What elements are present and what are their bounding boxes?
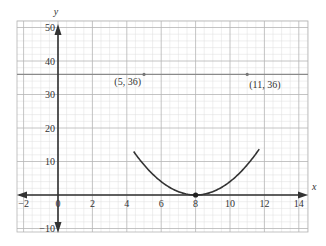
y-axis-arrow-up-icon bbox=[55, 24, 62, 35]
y-axis-arrow-down-icon bbox=[55, 222, 62, 233]
x-tick-label: 14 bbox=[294, 198, 304, 209]
intersection-point bbox=[246, 73, 249, 76]
intersection-point bbox=[142, 73, 145, 76]
x-tick-label: 10 bbox=[225, 198, 235, 209]
y-axis-label: y bbox=[53, 6, 59, 17]
x-axis-label: x bbox=[311, 181, 317, 192]
x-tick-label: 2 bbox=[90, 198, 95, 209]
y-tick-label: −10 bbox=[39, 223, 55, 234]
x-tick-label: 4 bbox=[124, 198, 129, 209]
y-tick-label: 20 bbox=[45, 123, 55, 134]
x-tick-label: 6 bbox=[159, 198, 164, 209]
y-tick-label: 50 bbox=[45, 22, 55, 33]
point-label: (5, 36) bbox=[114, 76, 141, 88]
x-tick-label: −2 bbox=[18, 198, 29, 209]
x-tick-label: 12 bbox=[259, 198, 269, 209]
point-label: (11, 36) bbox=[249, 79, 280, 91]
y-tick-label: 30 bbox=[45, 89, 55, 100]
x-tick-labels: −202468101214 bbox=[18, 198, 304, 209]
x-tick-label: 0 bbox=[56, 198, 61, 209]
x-tick-label: 8 bbox=[193, 198, 198, 209]
y-tick-label: 40 bbox=[45, 56, 55, 67]
y-tick-label: 10 bbox=[45, 156, 55, 167]
vertex-point bbox=[193, 192, 198, 197]
chart-canvas: (5, 36)(11, 36) −202468101214 −101020304… bbox=[0, 0, 326, 246]
